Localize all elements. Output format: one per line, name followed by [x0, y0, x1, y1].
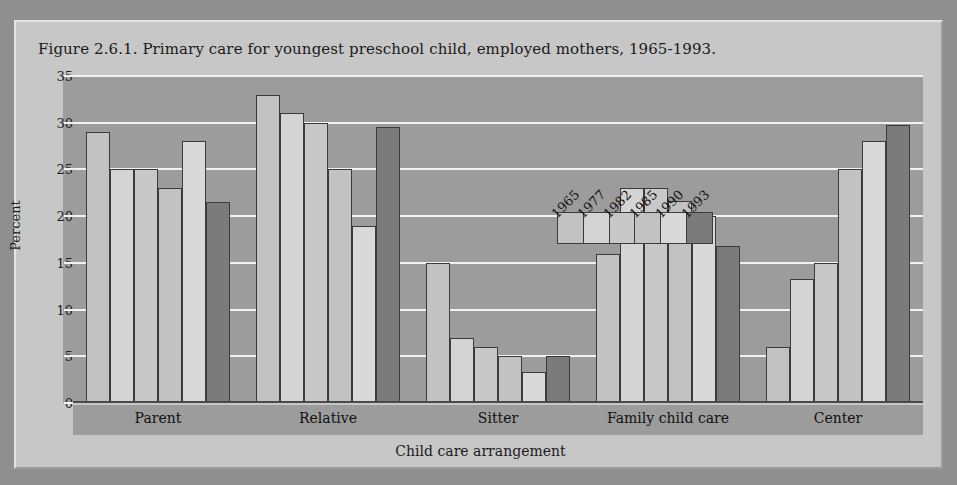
- x-axis-label: Child care arrangement: [16, 443, 945, 459]
- bar: [716, 246, 740, 403]
- y-tick-mark: [64, 168, 73, 170]
- bar: [426, 263, 450, 403]
- bar: [256, 95, 280, 403]
- bar: [886, 125, 910, 403]
- category-label: Center: [814, 410, 863, 426]
- bar: [110, 169, 134, 403]
- y-tick-mark: [64, 402, 73, 404]
- bar: [304, 123, 328, 403]
- bar: [158, 188, 182, 403]
- bar: [474, 347, 498, 403]
- bar: [86, 132, 110, 403]
- bar: [546, 356, 570, 403]
- bar: [692, 216, 716, 403]
- category-label: Sitter: [478, 410, 518, 426]
- bar: [790, 279, 814, 403]
- bar: [182, 141, 206, 403]
- y-tick-mark: [64, 262, 73, 264]
- figure-title: Figure 2.6.1. Primary care for youngest …: [38, 40, 716, 58]
- bar: [522, 372, 546, 403]
- bar: [376, 127, 400, 403]
- bar: [838, 169, 862, 403]
- y-tick-mark: [64, 75, 73, 77]
- y-tick-mark: [64, 122, 73, 124]
- y-tick-mark: [64, 355, 73, 357]
- bar: [814, 263, 838, 403]
- bar: [206, 202, 230, 403]
- plot-area: 196519771982198519901993: [73, 76, 923, 403]
- x-axis-baseline: [73, 401, 923, 403]
- bar: [596, 254, 620, 403]
- bar: [280, 113, 304, 403]
- bar: [328, 169, 352, 403]
- category-label: Family child care: [607, 410, 729, 426]
- bar: [352, 226, 376, 404]
- y-tick-mark: [64, 309, 73, 311]
- gridline: [73, 122, 923, 124]
- y-axis-label: Percent: [8, 200, 23, 251]
- bar: [450, 338, 474, 403]
- figure-panel: Figure 2.6.1. Primary care for youngest …: [14, 20, 943, 469]
- bar: [134, 169, 158, 403]
- bar: [766, 347, 790, 403]
- category-label: Relative: [299, 410, 357, 426]
- category-axis: ParentRelativeSitterFamily child careCen…: [73, 405, 923, 435]
- bar: [498, 356, 522, 403]
- y-tick-mark: [64, 215, 73, 217]
- category-label: Parent: [135, 410, 182, 426]
- gridline: [73, 75, 923, 77]
- y-axis-ticks: 05101520253035: [16, 76, 73, 403]
- bar: [862, 141, 886, 403]
